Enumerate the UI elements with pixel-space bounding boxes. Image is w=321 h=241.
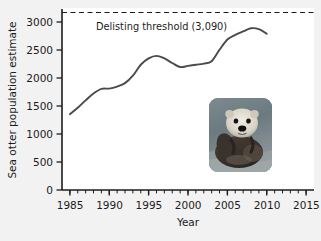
y-axis-tick-labels: 3000 2500 2000 1500 1000 500 0 — [26, 16, 53, 196]
y-tick-label-0: 0 — [46, 184, 53, 196]
y-tick-label-2500: 2500 — [26, 44, 53, 56]
line-chart: Delisting threshold (3,090) 3000 2500 20… — [0, 0, 321, 241]
sea-otter-illustration — [209, 98, 272, 172]
x-tick-label-2015: 2015 — [293, 199, 320, 211]
x-tick-label-1985: 1985 — [57, 199, 84, 211]
y-axis-ticks — [57, 22, 63, 190]
chart-figure: Delisting threshold (3,090) 3000 2500 20… — [0, 0, 321, 241]
x-tick-label-2000: 2000 — [175, 199, 202, 211]
y-tick-label-2000: 2000 — [26, 72, 53, 84]
x-axis-title: Year — [176, 216, 200, 228]
y-tick-label-1500: 1500 — [26, 100, 53, 112]
y-tick-label-1000: 1000 — [26, 128, 53, 140]
x-tick-label-1990: 1990 — [96, 199, 123, 211]
y-tick-label-3000: 3000 — [26, 16, 53, 28]
delisting-threshold-label: Delisting threshold (3,090) — [96, 21, 227, 32]
x-tick-label-2005: 2005 — [214, 199, 241, 211]
x-tick-label-1995: 1995 — [136, 199, 163, 211]
sea-otter-photo — [209, 98, 272, 172]
y-axis-title: Sea otter population estimate — [6, 21, 18, 178]
x-axis-major-ticks — [70, 190, 306, 196]
y-tick-label-500: 500 — [33, 156, 53, 168]
x-tick-label-2010: 2010 — [254, 199, 281, 211]
x-axis-tick-labels: 1985 1990 1995 2000 2005 2010 2015 — [57, 199, 320, 211]
